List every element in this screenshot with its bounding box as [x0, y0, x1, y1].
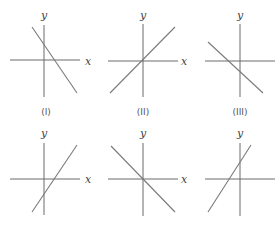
y-axis-label: y: [41, 10, 47, 21]
x-axis-label: x: [85, 174, 91, 185]
graph-caption: (III): [233, 108, 248, 117]
graph-top-left: [10, 25, 80, 97]
y-axis-label: y: [140, 10, 146, 21]
graph-bottom-middle: [108, 143, 178, 216]
graph-bottom-right: [205, 143, 275, 216]
y-axis-label: y: [41, 128, 47, 139]
x-axis-label: x: [181, 174, 187, 185]
graph-caption: (I): [41, 108, 51, 117]
y-axis-label: y: [237, 128, 243, 139]
graph-bottom-left: [10, 143, 80, 215]
x-axis-label: x: [85, 56, 91, 67]
x-axis-label: x: [181, 56, 187, 67]
plotted-line: [208, 42, 263, 93]
graph-caption: (II): [137, 108, 149, 117]
y-axis-label: y: [140, 128, 146, 139]
y-axis-label: y: [237, 10, 243, 21]
graph-top-middle: [108, 24, 178, 97]
graph-grid: yx(I)yx(II)y(III)yxyyx: [0, 0, 280, 225]
graph-top-right: [205, 24, 275, 97]
